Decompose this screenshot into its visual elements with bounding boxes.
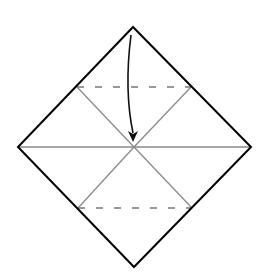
upper-left-crease: [77, 87, 134, 147]
lower-right-crease: [134, 147, 192, 208]
lower-left-crease: [78, 147, 134, 208]
origami-diagram: [0, 0, 260, 277]
crease-lines: [18, 87, 251, 208]
upper-right-crease: [134, 87, 191, 147]
fold-arrow-icon: [128, 35, 138, 142]
